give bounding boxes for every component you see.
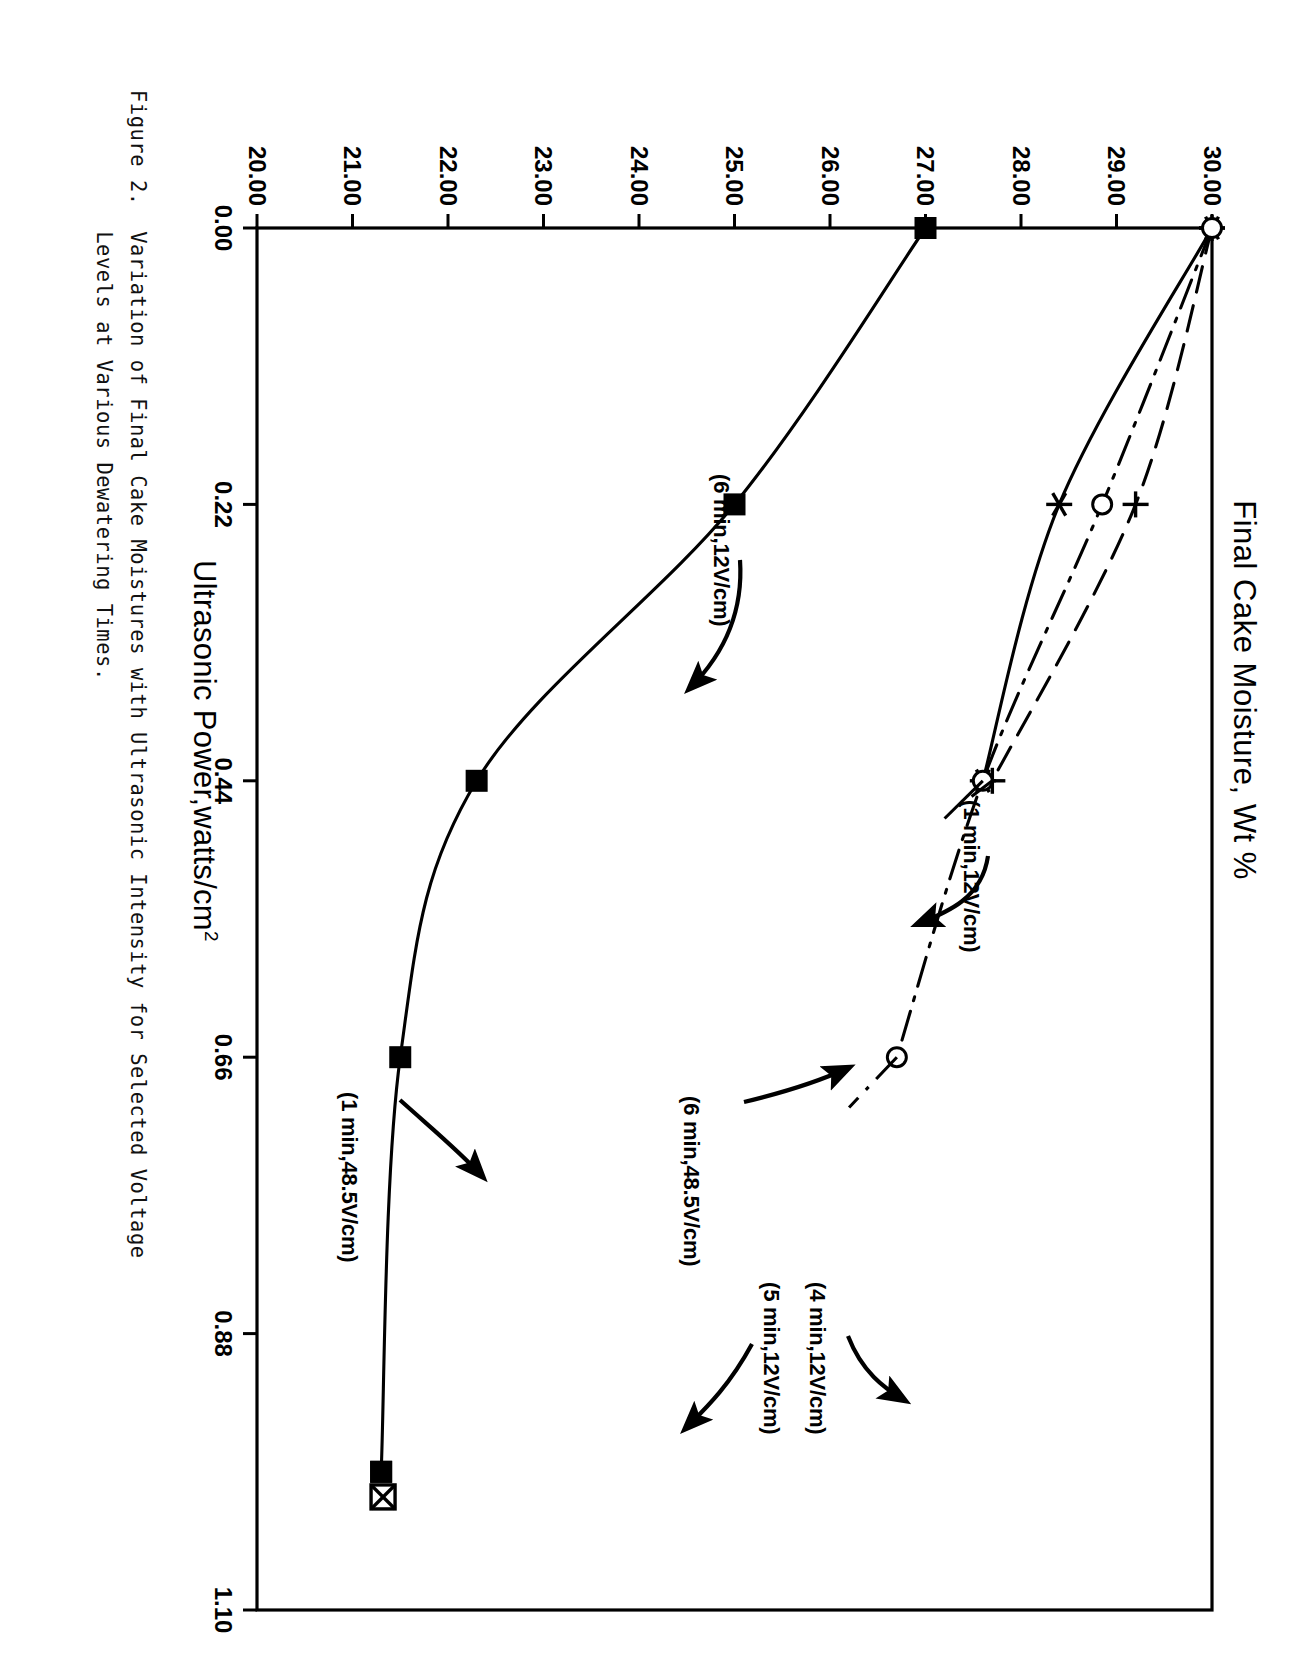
y-tick-label: 28.00 [1007, 146, 1035, 206]
y-tick-label: 24.00 [625, 146, 653, 206]
series-line [897, 228, 1212, 1057]
caption-line-1: Figure 2. Variation of Final Cake Moistu… [126, 90, 150, 1259]
y-tick-label: 21.00 [339, 146, 367, 206]
plot-area [0, 0, 1300, 1679]
annotation-arrow [400, 1100, 482, 1176]
y-tick-label: 23.00 [530, 146, 558, 206]
series-marker [389, 1046, 411, 1068]
annotation-arrow [848, 1336, 904, 1400]
y-tick-label: 27.00 [912, 146, 940, 206]
y-tick-label: 26.00 [816, 146, 844, 206]
figure-page: Final Cake Moisture, Wt % Ultrasonic Pow… [0, 0, 1300, 1679]
annotation-label: (6 min,48.5V/cm) [678, 1096, 704, 1266]
series-marker [466, 770, 488, 792]
annotation-label: (6 min,12V/cm) [708, 474, 734, 626]
annotation-arrow [744, 1068, 848, 1102]
x-tick-label: 0.22 [209, 481, 237, 528]
series-marker [1203, 219, 1222, 238]
y-tick-label: 22.00 [434, 146, 462, 206]
y-tick-label: 29.00 [1103, 146, 1131, 206]
series-marker [915, 217, 937, 239]
series-marker [370, 1461, 392, 1483]
x-tick-label: 0.88 [209, 1310, 237, 1357]
plot-frame [257, 228, 1212, 1610]
series-marker [1093, 495, 1112, 514]
series-line-tail [849, 1057, 897, 1107]
caption-line-2: Levels at Various Dewatering Times. [92, 90, 116, 681]
y-tick-label: 25.00 [721, 146, 749, 206]
figure-caption: Figure 2. Variation of Final Cake Moistu… [87, 90, 155, 1590]
x-tick-label: 1.10 [209, 1587, 237, 1634]
x-tick-label: 0.00 [209, 205, 237, 252]
series-line [381, 228, 925, 1472]
rotated-figure-container: Final Cake Moisture, Wt % Ultrasonic Pow… [0, 0, 1300, 1679]
y-tick-label: 30.00 [1198, 146, 1226, 206]
annotation-label: (1 min,48.5V/cm) [336, 1092, 362, 1262]
annotation-arrow [686, 1344, 752, 1428]
annotation-label: (5 min,12V/cm) [758, 1282, 784, 1434]
x-tick-label: 0.66 [209, 1034, 237, 1081]
annotation-label: (1 min,12V/cm) [958, 800, 984, 952]
annotation-label: (4 min,12V/cm) [804, 1282, 830, 1434]
x-tick-label: 0.44 [209, 757, 237, 804]
y-tick-label: 20.00 [243, 146, 271, 206]
